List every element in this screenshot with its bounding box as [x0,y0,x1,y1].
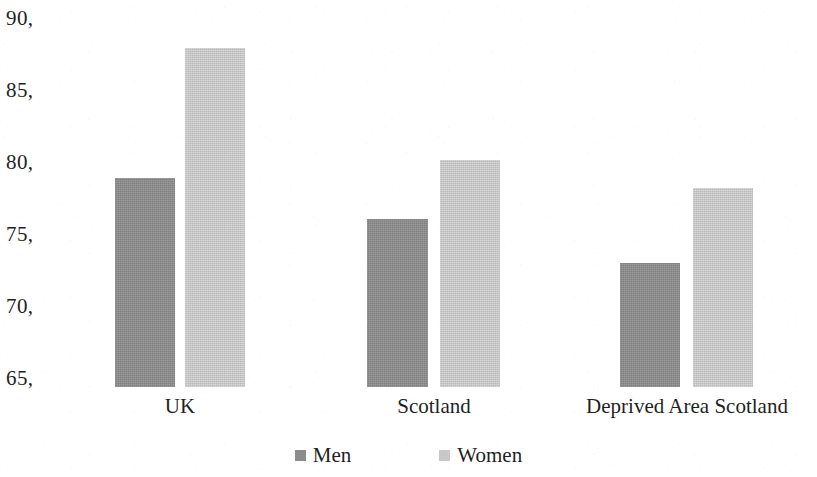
plot-area [78,16,808,387]
bar-chart: 90, 85, 80, 75, 70, 65, UK Scotland Depr… [0,0,817,477]
x-axis-category-label-uk: UK [110,394,250,418]
x-axis-category-label-deprived-area-scotland: Deprived Area Scotland [557,394,817,418]
y-axis-tick-label: 85, [6,80,64,101]
bar-women-deprived-area-scotland[interactable] [693,188,753,387]
legend: Men Women [0,444,817,466]
bar-women-uk[interactable] [185,48,245,387]
y-axis-tick-label: 65, [6,368,64,389]
x-axis-category-label-scotland: Scotland [364,394,504,418]
bar-men-uk[interactable] [115,178,175,387]
legend-label-women: Women [457,444,522,466]
y-axis-tick-label: 70, [6,296,64,317]
legend-item-men[interactable]: Men [295,444,352,466]
bar-men-deprived-area-scotland[interactable] [620,263,680,387]
legend-swatch-women-icon [439,450,450,461]
legend-swatch-men-icon [295,450,306,461]
y-axis-tick-label: 90, [6,8,64,29]
legend-item-women[interactable]: Women [439,444,522,466]
y-axis-tick-label: 80, [6,152,64,173]
y-axis-tick-label: 75, [6,224,64,245]
bar-men-scotland[interactable] [367,219,428,387]
legend-label-men: Men [313,444,352,466]
bar-women-scotland[interactable] [440,160,500,387]
